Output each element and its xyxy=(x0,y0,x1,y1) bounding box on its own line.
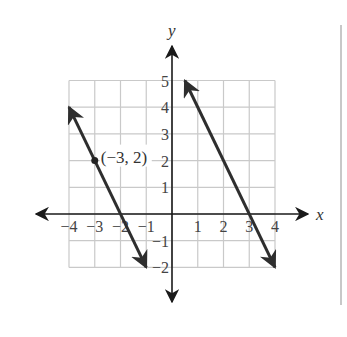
page-separator-line xyxy=(340,25,342,305)
point-label: (−3, 2) xyxy=(101,148,147,167)
axes xyxy=(36,46,308,302)
y-tick-label: 1 xyxy=(161,179,169,196)
x-tick-label: 2 xyxy=(220,218,228,235)
y-tick-label: 4 xyxy=(161,99,169,116)
coordinate-plane-chart: −4−3−2−11234−2−112345 (−3, 2) x y xyxy=(0,0,347,337)
x-tick-label: 4 xyxy=(271,218,279,235)
x-tick-label: 1 xyxy=(194,218,202,235)
annotations: (−3, 2) xyxy=(91,145,152,167)
line-2 xyxy=(185,81,275,268)
y-tick-label: −2 xyxy=(152,259,169,276)
x-tick-label: −3 xyxy=(86,218,103,235)
y-axis-label: y xyxy=(166,21,176,40)
tick-labels: −4−3−2−11234−2−112345 xyxy=(60,73,279,277)
x-axis-label: x xyxy=(315,205,324,224)
point-marker xyxy=(91,157,98,164)
x-tick-label: −4 xyxy=(60,218,77,235)
y-tick-label: 5 xyxy=(161,73,169,90)
y-tick-label: 2 xyxy=(161,153,169,170)
y-tick-label: 3 xyxy=(161,126,169,143)
y-tick-label: −1 xyxy=(152,233,169,250)
